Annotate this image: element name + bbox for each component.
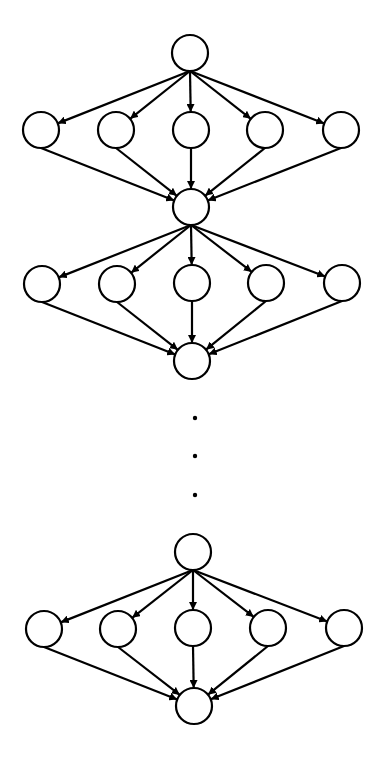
edge-fanout	[191, 225, 252, 272]
ellipsis-dots	[193, 416, 197, 497]
edge-fanout	[193, 570, 254, 617]
sink-node	[176, 688, 212, 724]
branch-node	[326, 610, 362, 646]
nodes	[23, 35, 362, 724]
edge-fanin	[209, 301, 342, 354]
ellipsis-dot	[193, 454, 197, 458]
source-node	[175, 534, 211, 570]
branch-node	[250, 610, 286, 646]
edges	[41, 71, 344, 699]
edge-fanout	[190, 71, 191, 112]
branch-node	[324, 265, 360, 301]
branch-node	[175, 610, 211, 646]
edge-fanout	[131, 225, 191, 273]
edge-fanout	[130, 71, 190, 119]
branch-node	[100, 611, 136, 647]
branch-node	[248, 265, 284, 301]
ellipsis-dot	[193, 493, 197, 497]
source-node	[172, 35, 208, 71]
edge-fanout	[190, 71, 251, 119]
edge-fanin	[193, 646, 194, 688]
edge-fanout	[191, 225, 192, 265]
branch-node	[98, 112, 134, 148]
edge-fanin	[211, 646, 344, 699]
edge-fanin	[42, 302, 175, 354]
edge-fanin	[208, 148, 341, 200]
fan-out-fan-in-diagram	[0, 0, 388, 768]
branch-node	[23, 112, 59, 148]
edge-fanout	[132, 570, 193, 618]
branch-node	[24, 266, 60, 302]
branch-node	[323, 112, 359, 148]
branch-node	[99, 266, 135, 302]
ellipsis-dot	[193, 416, 197, 420]
branch-node	[173, 112, 209, 148]
branch-node	[247, 112, 283, 148]
branch-node	[26, 611, 62, 647]
edge-fanin	[41, 148, 174, 200]
branch-node	[174, 265, 210, 301]
sink-node	[173, 189, 209, 225]
edge-fanin	[44, 647, 177, 699]
sink-node	[174, 343, 210, 379]
